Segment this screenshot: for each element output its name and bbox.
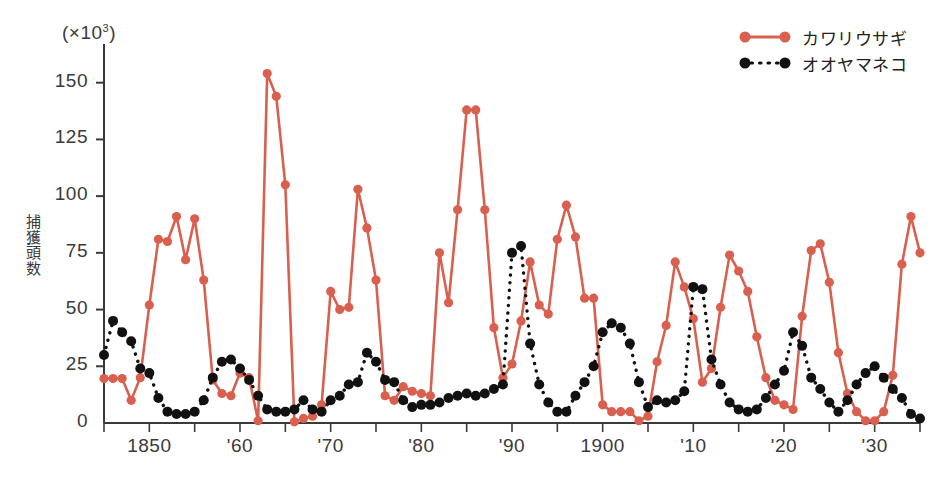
- x-tick-label: '70: [296, 435, 366, 457]
- data-point: [552, 407, 562, 417]
- data-point: [679, 386, 689, 396]
- data-point: [190, 407, 200, 417]
- data-point: [199, 395, 209, 405]
- data-point: [108, 374, 117, 383]
- data-point: [371, 275, 380, 284]
- data-point: [607, 318, 617, 328]
- x-tick-label: '30: [840, 435, 910, 457]
- data-point: [181, 409, 191, 419]
- data-point: [688, 282, 698, 292]
- data-point: [262, 404, 272, 414]
- data-point: [462, 105, 471, 114]
- data-point: [263, 69, 272, 78]
- data-point: [489, 384, 499, 394]
- data-point: [254, 416, 263, 425]
- data-point: [435, 248, 444, 257]
- x-tick-label: '20: [749, 435, 819, 457]
- data-point: [915, 248, 924, 257]
- data-point: [199, 275, 208, 284]
- data-point: [571, 232, 580, 241]
- data-point: [471, 105, 480, 114]
- data-point: [353, 377, 363, 387]
- data-point: [434, 398, 444, 408]
- data-point: [915, 413, 925, 423]
- data-point: [807, 246, 816, 255]
- data-point: [788, 327, 798, 337]
- data-point: [281, 180, 290, 189]
- data-point: [444, 393, 454, 403]
- data-point: [861, 416, 870, 425]
- series-line-hare: [104, 74, 920, 422]
- data-point: [326, 395, 336, 405]
- data-point: [144, 368, 154, 378]
- data-point: [181, 255, 190, 264]
- x-tick-label: 1900: [568, 435, 638, 457]
- x-tick-label: 1850: [114, 435, 184, 457]
- data-point: [743, 287, 752, 296]
- data-point: [217, 357, 227, 367]
- legend-swatch-hare: [738, 29, 792, 45]
- data-point: [852, 407, 861, 416]
- data-point: [788, 405, 797, 414]
- data-point: [272, 92, 281, 101]
- data-point: [589, 294, 598, 303]
- data-point: [163, 237, 172, 246]
- data-point: [543, 398, 553, 408]
- data-point: [344, 379, 354, 389]
- data-point: [716, 379, 726, 389]
- data-point: [507, 248, 517, 258]
- data-point: [290, 417, 299, 426]
- data-point: [489, 323, 498, 332]
- data-point: [425, 400, 435, 410]
- data-point: [897, 393, 907, 403]
- data-point: [734, 266, 743, 275]
- data-point: [834, 348, 843, 357]
- data-point: [743, 407, 753, 417]
- data-point: [797, 341, 807, 351]
- y-tick-label: 50: [26, 297, 88, 319]
- series-markers-hare: [99, 69, 924, 426]
- data-point: [634, 377, 644, 387]
- data-point: [680, 282, 689, 291]
- data-point: [480, 205, 489, 214]
- x-tick-label: '90: [477, 435, 547, 457]
- y-tick-label: 100: [26, 183, 88, 205]
- data-point: [544, 310, 553, 319]
- y-tick-label: 25: [26, 353, 88, 375]
- y-tick-label: 0: [26, 410, 88, 432]
- data-point: [716, 303, 725, 312]
- data-point: [326, 287, 335, 296]
- data-point: [453, 391, 463, 401]
- data-point: [616, 323, 626, 333]
- x-tick-label: '60: [205, 435, 275, 457]
- data-point: [770, 396, 779, 405]
- data-point: [697, 284, 707, 294]
- legend-item-hare: カワリウサギ: [738, 24, 907, 50]
- data-point: [598, 400, 607, 409]
- data-point: [136, 373, 145, 382]
- chart-legend: カワリウサギ オオヤマネコ: [738, 24, 907, 76]
- data-point: [371, 357, 381, 367]
- data-point: [870, 416, 879, 425]
- data-point: [172, 409, 182, 419]
- data-point: [816, 239, 825, 248]
- data-point: [833, 407, 843, 417]
- data-point: [226, 391, 235, 400]
- data-point: [118, 374, 127, 383]
- data-point: [643, 412, 652, 421]
- data-point: [353, 185, 362, 194]
- data-point: [625, 339, 635, 349]
- data-point: [217, 389, 226, 398]
- data-point: [607, 407, 616, 416]
- data-point: [879, 407, 888, 416]
- data-point: [117, 327, 127, 337]
- data-point: [289, 404, 299, 414]
- data-point: [516, 316, 525, 325]
- data-point: [99, 350, 109, 360]
- data-point: [779, 366, 789, 376]
- data-point: [580, 294, 589, 303]
- data-point: [671, 257, 680, 266]
- data-point: [752, 404, 762, 414]
- data-point: [625, 407, 634, 416]
- figure-caption: [0, 470, 932, 484]
